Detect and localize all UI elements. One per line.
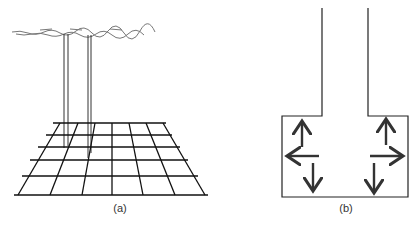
channel-outline (282, 8, 408, 197)
panel-b: (b) (250, 0, 418, 226)
cloud-strip (12, 24, 155, 39)
grid-horizontal-lines (14, 123, 208, 195)
channel-flow-diagram (250, 0, 418, 226)
perspective-grid-diagram (0, 0, 230, 226)
grid-vertical-lines (18, 123, 205, 195)
caption-b: (b) (326, 202, 366, 214)
flow-arrows (287, 119, 403, 193)
posts (64, 34, 91, 158)
panel-a: (a) (0, 0, 230, 226)
caption-a: (a) (100, 202, 140, 214)
